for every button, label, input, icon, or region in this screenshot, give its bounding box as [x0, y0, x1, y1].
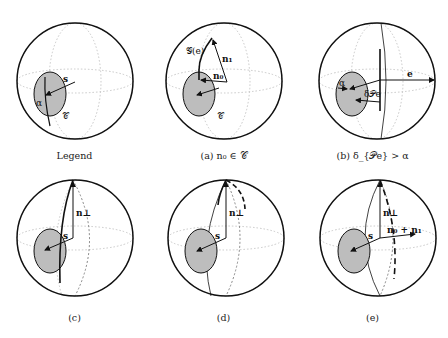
- panel-e: n⊥ s n₀ + n₁ (e): [298, 169, 447, 338]
- label-s: s: [215, 231, 220, 241]
- label-nperp: n⊥: [76, 208, 91, 218]
- label-alpha: α: [36, 98, 42, 108]
- label-cone: 𝒞: [62, 111, 70, 121]
- label-s: s: [63, 74, 68, 84]
- sphere-diagram-a: 𝒢(e) n₁ n₀ 𝒞: [149, 0, 298, 169]
- label-cone: 𝒞: [217, 111, 225, 121]
- label-s: s: [368, 231, 373, 241]
- label-g: 𝒢(e): [186, 46, 204, 56]
- sphere-diagram-b: e α δ𝒫e: [298, 0, 448, 169]
- label-nperp: n⊥: [383, 208, 398, 218]
- panel-c: n⊥ s (c): [0, 169, 149, 338]
- label-sum: n₀ + n₁: [387, 225, 422, 235]
- label-alpha: α: [339, 78, 345, 88]
- label-s: s: [63, 231, 68, 241]
- panel-d: n⊥ s (d): [149, 169, 298, 338]
- panel-a: 𝒢(e) n₁ n₀ 𝒞 (a) n₀ ∈ 𝒞: [149, 0, 298, 169]
- panel-b: e α δ𝒫e (b) δ_{𝒫e} > α: [298, 0, 447, 169]
- label-nperp: n⊥: [229, 208, 244, 218]
- label-e: e: [407, 69, 413, 79]
- label-n1: n₁: [222, 54, 233, 64]
- caption-d: (d): [149, 312, 298, 323]
- caption-a: (a) n₀ ∈ 𝒞: [149, 150, 298, 162]
- label-n0: n₀: [213, 71, 224, 81]
- caption-c: (c): [0, 312, 149, 323]
- sphere-diagram-legend: s α 𝒞: [0, 0, 149, 169]
- caption-legend: Legend: [0, 150, 149, 161]
- caption-e: (e): [298, 312, 447, 323]
- label-delta: δ𝒫e: [364, 89, 381, 99]
- panel-legend: s α 𝒞 Legend: [0, 0, 149, 169]
- caption-b: (b) δ_{𝒫e} > α: [298, 150, 447, 162]
